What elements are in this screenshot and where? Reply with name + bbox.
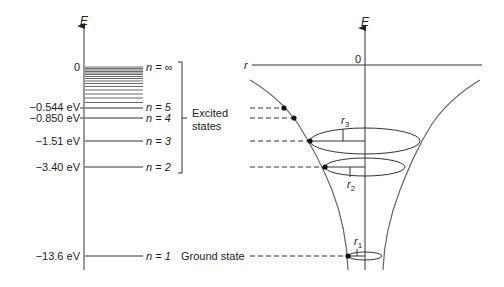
r-axis-label: r — [244, 60, 248, 71]
energy-label-n2: −3.40 eV — [36, 162, 80, 173]
energy-level-diagram: E 0 −0.544 eV −0.850 eV −1.51 eV −3.40 e… — [0, 0, 504, 287]
excited-states-bracket — [178, 62, 187, 173]
continuum-lines — [85, 67, 143, 103]
r1-subscript: 1 — [358, 241, 362, 250]
r3-label: r3 — [341, 115, 349, 129]
r1-label: r1 — [354, 236, 362, 250]
n-label-2: n = 2 — [146, 162, 171, 173]
excited-label-line1: Excited — [192, 108, 228, 119]
energy-label-n4: −0.850 eV — [30, 113, 80, 124]
energy-level-lines — [85, 108, 143, 256]
n-label-4: n = 4 — [146, 113, 171, 124]
energy-ticks — [80, 108, 84, 118]
r3-subscript: 3 — [345, 120, 349, 129]
excited-label-line2: states — [192, 121, 221, 132]
n-label-1: n = 1 — [146, 251, 171, 262]
energy-label-n1: −13.6 eV — [36, 251, 80, 262]
energy-label-n-inf: 0 — [74, 62, 80, 73]
origin-label: 0 — [355, 54, 361, 65]
n-label-3: n = 3 — [146, 136, 171, 147]
left-axis-label: E — [80, 15, 88, 27]
r2-subscript: 2 — [351, 184, 355, 193]
r2-label: r2 — [347, 179, 355, 193]
right-axis-label: E — [361, 16, 369, 28]
n-label-inf: n = ∞ — [146, 62, 173, 73]
ground-state-label: Ground state — [181, 251, 245, 262]
energy-label-n3: −1.51 eV — [36, 136, 80, 147]
